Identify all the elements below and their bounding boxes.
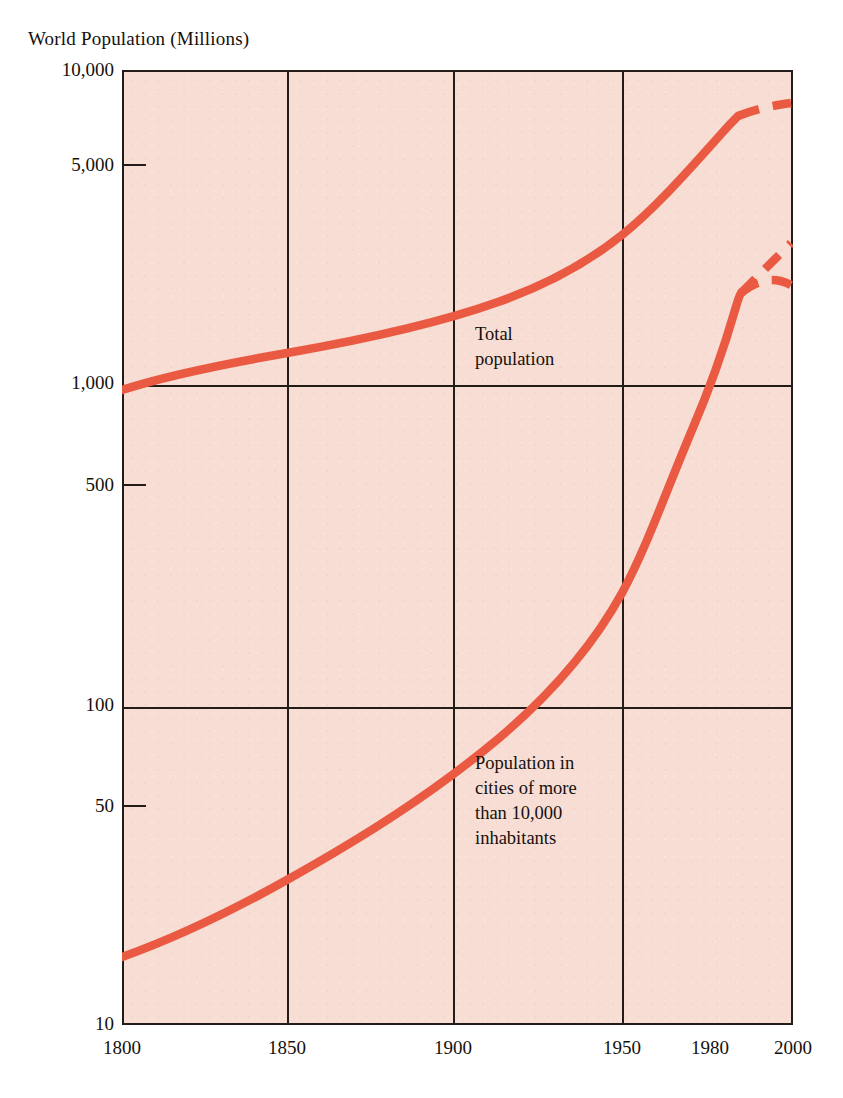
ytick-label-10000: 10,000	[16, 59, 114, 81]
gridline-x-1900	[453, 72, 455, 1023]
annotation-total-population-line1: Total	[475, 322, 554, 347]
annotation-urban-population-line4: inhabitants	[475, 826, 577, 851]
annotation-urban-population-line1: Population in	[475, 751, 577, 776]
gridline-y-1000	[124, 385, 791, 387]
ytick-label-50: 50	[16, 795, 114, 817]
annotation-total-population: Total population	[475, 322, 554, 372]
xtick-label-2000: 2000	[753, 1037, 833, 1059]
annotation-urban-population-line2: cities of more	[475, 776, 577, 801]
plot-area	[122, 70, 793, 1025]
annotation-urban-population: Population in cities of more than 10,000…	[475, 751, 577, 851]
xtick-label-1850: 1850	[247, 1037, 327, 1059]
xtick-label-1980: 1980	[670, 1037, 750, 1059]
ytick-mark-500	[122, 484, 146, 486]
ytick-label-500: 500	[16, 474, 114, 496]
ytick-label-1000: 1,000	[16, 372, 114, 394]
population-chart-figure: World Population (Millions) 10,000 5,000…	[0, 0, 843, 1098]
xtick-label-1900: 1900	[413, 1037, 493, 1059]
gridline-x-1950	[622, 72, 624, 1023]
ytick-mark-5000	[122, 164, 146, 166]
annotation-total-population-line2: population	[475, 347, 554, 372]
gridline-x-1850	[287, 72, 289, 1023]
annotation-urban-population-line3: than 10,000	[475, 801, 577, 826]
ytick-mark-50	[122, 805, 146, 807]
gridline-y-100	[124, 707, 791, 709]
xtick-label-1950: 1950	[582, 1037, 662, 1059]
ytick-label-100: 100	[16, 694, 114, 716]
ytick-label-10: 10	[16, 1013, 114, 1035]
ytick-label-5000: 5,000	[16, 154, 114, 176]
chart-title: World Population (Millions)	[28, 28, 249, 50]
paper-texture	[124, 72, 791, 1023]
xtick-label-1800: 1800	[82, 1037, 162, 1059]
